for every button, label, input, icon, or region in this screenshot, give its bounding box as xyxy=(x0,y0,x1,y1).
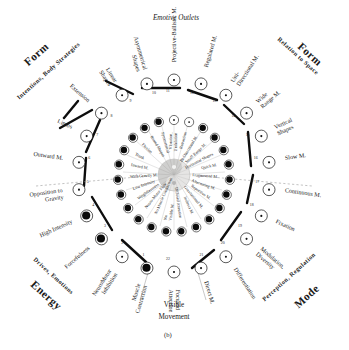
inner-node-p xyxy=(124,204,133,213)
inner-node-v xyxy=(140,124,149,133)
outer-node-number-22: 22 xyxy=(166,257,170,261)
outer-node-number-8: 8 xyxy=(111,114,113,118)
outer-node-22 xyxy=(168,266,180,278)
outer-node-21 xyxy=(195,262,207,274)
outer-node-number-19: 19 xyxy=(238,224,242,228)
outer-node-number-11: 11 xyxy=(166,89,170,93)
outer-node-15 xyxy=(255,130,267,142)
outer-node-number-21: 21 xyxy=(200,253,204,257)
outer-node-number-17: 17 xyxy=(255,180,259,184)
outer-node-10 xyxy=(141,78,153,90)
outer-node-1 xyxy=(141,262,153,274)
outer-node-12 xyxy=(195,78,207,90)
outer-node-number-5: 5 xyxy=(87,180,89,184)
outer-node-number-12: 12 xyxy=(190,91,194,95)
outer-node-number-14: 14 xyxy=(231,114,235,118)
outer-node-16 xyxy=(263,156,275,168)
outer-node-9 xyxy=(116,89,128,101)
inner-node-i xyxy=(215,204,224,213)
inner-node-q xyxy=(117,190,126,199)
inner-node-w xyxy=(154,117,163,126)
inner-node-c xyxy=(198,124,207,133)
inner-node-b xyxy=(185,117,194,126)
outer-node-number-20: 20 xyxy=(221,241,225,245)
outer-node-5 xyxy=(73,184,85,196)
inner-node-h xyxy=(222,190,231,199)
outer-node-13 xyxy=(220,89,232,101)
outer-node-17 xyxy=(263,184,275,196)
inner-node-r xyxy=(114,175,123,184)
inner-node-e xyxy=(219,146,228,155)
inner-node-g xyxy=(225,175,234,184)
inner-node-d xyxy=(210,133,219,142)
outer-node-7 xyxy=(81,130,93,142)
inner-node-m xyxy=(162,227,171,236)
outer-node-2 xyxy=(116,251,128,263)
outer-node-19 xyxy=(241,233,253,245)
inner-node-s xyxy=(115,160,124,169)
inner-node-n xyxy=(147,223,156,232)
outer-node-number-15: 15 xyxy=(246,133,250,137)
outer-node-number-4: 4 xyxy=(92,203,94,207)
outer-node-3 xyxy=(95,233,107,245)
figure-caption: (b) xyxy=(164,331,172,338)
outer-node-number-3: 3 xyxy=(104,224,106,228)
outer-node-number-1: 1 xyxy=(142,253,144,257)
bottom-axis-label-line2: Movement xyxy=(124,313,224,321)
outer-node-4 xyxy=(81,210,93,222)
inner-node-j xyxy=(205,215,214,224)
outer-node-6 xyxy=(73,156,85,168)
inner-node-label-a: Vibration,Undulation xyxy=(169,133,178,152)
outer-node-number-7: 7 xyxy=(96,133,98,137)
outer-node-number-2: 2 xyxy=(121,241,123,245)
outer-node-number-10: 10 xyxy=(152,91,156,95)
inner-node-a xyxy=(169,115,178,124)
inner-node-l xyxy=(177,227,186,236)
outer-node-11 xyxy=(168,74,180,86)
outer-node-number-6: 6 xyxy=(88,156,90,160)
inner-node-o xyxy=(134,215,143,224)
figure-canvas: 1MuscleContraction2NeuroMotorInhibition3… xyxy=(0,0,349,350)
outer-node-8 xyxy=(95,107,107,119)
outer-node-number-13: 13 xyxy=(212,99,216,103)
inner-node-u xyxy=(128,133,137,142)
top-axis-label: Emotive Outlets xyxy=(126,14,226,22)
inner-node-k xyxy=(192,223,201,232)
bottom-axis-label-line1: Visible xyxy=(124,301,224,309)
outer-node-18 xyxy=(255,210,267,222)
outer-node-number-9: 9 xyxy=(130,99,132,103)
outer-node-20 xyxy=(220,251,232,263)
inner-node-f xyxy=(224,160,233,169)
outer-node-14 xyxy=(241,107,253,119)
outer-node-number-16: 16 xyxy=(254,156,258,160)
inner-node-t xyxy=(120,146,129,155)
outer-node-number-18: 18 xyxy=(250,203,254,207)
